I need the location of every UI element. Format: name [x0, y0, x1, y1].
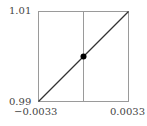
x-axis-min-label: −0.0033: [14, 107, 57, 117]
y-axis-max-label: 1.01: [9, 6, 31, 16]
center-data-point: [81, 54, 87, 60]
x-axis-max-label: 0.0033: [110, 107, 145, 117]
chart: 1.01 0.99 −0.0033 0.0033: [0, 0, 147, 126]
